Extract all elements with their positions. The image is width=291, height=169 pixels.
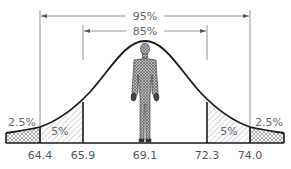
bracket-95-label: 95% (133, 10, 157, 23)
bracket-85: 85% (84, 25, 206, 38)
axis-value-65-9: 65.9 (71, 149, 96, 162)
tail-left-outer-label: 2.5% (8, 116, 36, 129)
arrow-right-icon (243, 14, 249, 18)
bracket-85-label: 85% (133, 25, 157, 38)
arrow-left-icon (41, 14, 47, 18)
axis-value-64-4: 64.4 (28, 149, 53, 162)
axis-value-72-3: 72.3 (195, 149, 220, 162)
tail-right-outer-label: 2.5% (255, 116, 283, 129)
tail-right-inner-label: 5% (220, 125, 237, 138)
axis-value-74-0: 74.0 (238, 149, 263, 162)
arrow-right-icon (200, 29, 206, 33)
arrow-left-icon (84, 29, 90, 33)
bracket-95: 95% (41, 10, 249, 23)
percentile-diagram: 95% 85% 2.5% 5% 5% 2.5% 64.4 (0, 0, 291, 169)
tail-left-inner-label: 5% (51, 125, 68, 138)
tail-right-outer (250, 127, 284, 143)
tail-left-outer (6, 127, 40, 143)
human-figure-icon (131, 43, 159, 142)
axis-value-69-1: 69.1 (133, 149, 158, 162)
